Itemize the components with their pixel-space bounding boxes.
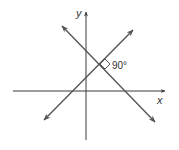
y-axis-label: y (75, 7, 83, 19)
line-ascending (44, 30, 133, 120)
line-descending (62, 26, 155, 122)
x-axis-label: x (156, 94, 163, 106)
angle-label: 90° (112, 60, 127, 71)
perpendicular-lines-diagram: y x 90° (0, 0, 179, 150)
